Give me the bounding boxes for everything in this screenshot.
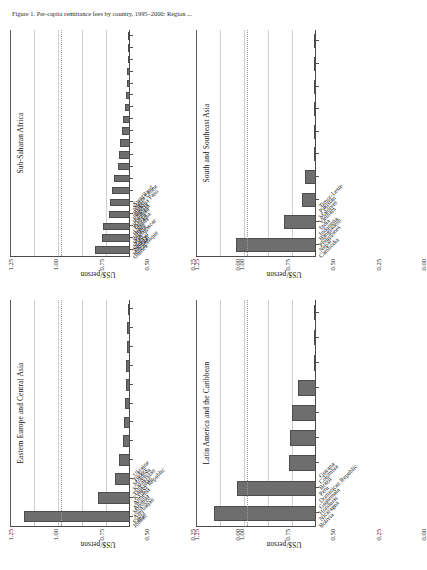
bar-column bbox=[196, 143, 316, 166]
bar-column bbox=[10, 375, 130, 394]
panel-latin-america-and-the-caribbean: US$/person 0.000.250.500.751.001.25 Lati… bbox=[190, 296, 376, 566]
bar-column bbox=[10, 470, 130, 489]
bar bbox=[115, 473, 130, 485]
bar-column bbox=[10, 451, 130, 470]
bar-column bbox=[10, 185, 130, 197]
bar-column bbox=[10, 488, 130, 507]
bar-column bbox=[10, 232, 130, 244]
figure-caption: Figure 1. Per-capita remittance fees by … bbox=[8, 2, 372, 24]
bar-column bbox=[196, 400, 316, 425]
bar bbox=[114, 175, 130, 182]
plot-area: Eastern Europe and Central Asia bbox=[10, 300, 130, 527]
bar-series bbox=[10, 30, 130, 256]
bar bbox=[110, 199, 130, 206]
bar-column bbox=[10, 319, 130, 338]
reference-line bbox=[61, 30, 62, 256]
bar-column bbox=[196, 476, 316, 501]
y-tick-label: 1.00 bbox=[52, 529, 59, 541]
bar-column bbox=[196, 30, 316, 53]
figure-caption-text: Figure 1. Per-capita remittance fees by … bbox=[12, 10, 192, 17]
bar-column bbox=[10, 208, 130, 220]
bar-column bbox=[10, 394, 130, 413]
plot-area: Latin America and the Caribbean bbox=[196, 300, 316, 527]
bar-column bbox=[10, 78, 130, 90]
bar bbox=[98, 492, 130, 504]
category-labels: GuineaMozambiqueZambiaSenegalMalawiMaliM… bbox=[130, 30, 186, 257]
reference-line bbox=[247, 300, 248, 526]
bar-column bbox=[10, 197, 130, 209]
plot-area: Sub-Saharan Africa bbox=[10, 30, 130, 257]
bar-column bbox=[10, 125, 130, 137]
y-tick-label: 0.25 bbox=[374, 529, 381, 541]
y-axis-tick-labels: 0.000.250.500.751.001.25 bbox=[196, 258, 372, 280]
y-axis-tick-labels: 0.000.250.500.751.001.25 bbox=[196, 528, 372, 550]
bar bbox=[298, 380, 316, 396]
y-tick-label: 0.75 bbox=[283, 529, 290, 541]
bar-column bbox=[196, 53, 316, 76]
bar-column bbox=[196, 501, 316, 526]
y-tick-label: 0.00 bbox=[420, 529, 427, 541]
bar-column bbox=[10, 432, 130, 451]
y-tick-label: 0.50 bbox=[143, 529, 150, 541]
bar-column bbox=[10, 338, 130, 357]
bar-series bbox=[10, 300, 130, 526]
y-tick-label: 1.25 bbox=[193, 259, 200, 271]
bar bbox=[214, 506, 316, 522]
y-tick-label: 0.50 bbox=[143, 259, 150, 271]
bar-column bbox=[10, 413, 130, 432]
bar bbox=[289, 455, 316, 471]
bar-series bbox=[196, 300, 316, 526]
bar-column bbox=[196, 98, 316, 121]
y-tick-label: 0.50 bbox=[329, 529, 336, 541]
bar-column bbox=[10, 149, 130, 161]
plot-area: South and Southeast Asia bbox=[196, 30, 316, 257]
bar bbox=[237, 481, 316, 497]
y-tick-label: 1.00 bbox=[238, 259, 245, 271]
bar-column bbox=[10, 30, 130, 42]
bar-column bbox=[10, 507, 130, 526]
bar-column bbox=[196, 325, 316, 350]
bar-column bbox=[10, 244, 130, 256]
y-axis-tick-labels: 0.000.250.500.751.001.25 bbox=[10, 258, 186, 280]
y-tick-label: 0.25 bbox=[374, 259, 381, 271]
y-axis-tick-labels: 0.000.250.500.751.001.25 bbox=[10, 528, 186, 550]
bar bbox=[102, 234, 130, 241]
bar-column bbox=[196, 350, 316, 375]
y-tick-label: 0.75 bbox=[97, 259, 104, 271]
reference-line bbox=[247, 30, 248, 256]
bar bbox=[109, 211, 130, 218]
bar-column bbox=[10, 137, 130, 149]
bar-column bbox=[196, 166, 316, 189]
bar-column bbox=[10, 54, 130, 66]
panel-south-and-southeast-asia: US$/person 0.000.250.500.751.001.25 Sout… bbox=[190, 26, 376, 296]
panel-sub-saharan-africa: US$/person 0.000.250.500.751.001.25 Sub-… bbox=[4, 26, 190, 296]
bar-column bbox=[10, 161, 130, 173]
y-tick-label: 1.25 bbox=[193, 529, 200, 541]
bar-column bbox=[10, 300, 130, 319]
bar-column bbox=[196, 233, 316, 256]
bar-column bbox=[196, 188, 316, 211]
y-tick-label: 1.00 bbox=[238, 529, 245, 541]
bar bbox=[290, 430, 316, 446]
y-tick-label: 0.50 bbox=[329, 259, 336, 271]
y-tick-label: 1.25 bbox=[7, 259, 14, 271]
bar bbox=[24, 511, 130, 523]
bar-column bbox=[10, 220, 130, 232]
bar-column bbox=[10, 357, 130, 376]
bar-column bbox=[196, 451, 316, 476]
bar bbox=[103, 223, 130, 230]
y-tick-label: 1.00 bbox=[52, 259, 59, 271]
bar bbox=[284, 215, 316, 229]
bar-column bbox=[196, 75, 316, 98]
panel-eastern-europe-and-central-asia: US$/person 0.000.250.500.751.001.25 East… bbox=[4, 296, 190, 566]
bar-column bbox=[10, 173, 130, 185]
y-tick-label: 0.75 bbox=[97, 529, 104, 541]
bar-column bbox=[10, 42, 130, 54]
bar-column bbox=[10, 66, 130, 78]
bar bbox=[112, 187, 130, 194]
bar-column bbox=[10, 113, 130, 125]
bar bbox=[302, 193, 316, 207]
